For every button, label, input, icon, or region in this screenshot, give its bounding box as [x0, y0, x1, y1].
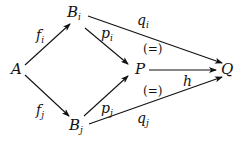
- label-pj: pj: [101, 101, 113, 118]
- diagram-arrows: [0, 0, 247, 142]
- label-pi-sub: i: [110, 33, 113, 43]
- label-qj: qj: [137, 111, 149, 128]
- node-bj-sub: j: [80, 125, 83, 135]
- label-h-base: h: [183, 73, 192, 89]
- label-qj-sub: j: [146, 118, 149, 128]
- label-h: h: [183, 74, 192, 88]
- label-fj: fj: [36, 103, 44, 120]
- node-q: Q: [221, 62, 233, 77]
- label-fi-sub: i: [41, 35, 44, 45]
- arrow-fi: [25, 24, 70, 65]
- label-pi: pi: [101, 26, 113, 43]
- label-qi: qi: [137, 13, 149, 30]
- label-pj-base: p: [101, 100, 110, 116]
- label-qj-base: q: [137, 110, 146, 126]
- label-pi-base: p: [101, 25, 110, 41]
- commutes-upper: (=): [143, 43, 162, 55]
- arrow-fj: [25, 75, 69, 116]
- node-bi-label: B: [67, 3, 78, 21]
- label-fj-sub: j: [41, 110, 44, 120]
- node-bi: Bi: [67, 5, 81, 22]
- label-fi: fi: [36, 28, 44, 45]
- label-qi-base: q: [137, 12, 146, 28]
- node-bi-sub: i: [78, 12, 81, 22]
- node-bj-label: B: [69, 116, 80, 134]
- node-p-label: P: [135, 60, 145, 78]
- label-qi-sub: i: [146, 20, 149, 30]
- node-q-label: Q: [221, 60, 233, 78]
- node-a: A: [11, 62, 22, 77]
- label-pj-sub: j: [110, 108, 113, 118]
- commutes-lower: (=): [143, 85, 162, 97]
- node-p: P: [135, 62, 145, 77]
- node-a-label: A: [11, 60, 22, 78]
- node-bj: Bj: [69, 118, 83, 135]
